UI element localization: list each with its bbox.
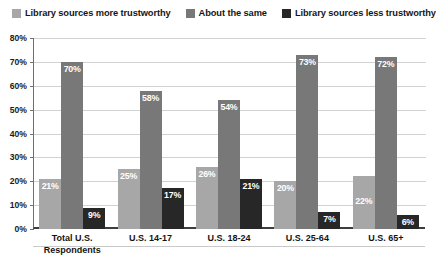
- bar-value-label: 54%: [218, 102, 240, 112]
- bar-value-label: 9%: [83, 210, 105, 220]
- bar: 6%: [397, 215, 419, 229]
- bar-group: 21%70%9%: [39, 38, 105, 229]
- x-axis-labels: Total U.S.RespondentsU.S. 14-17U.S. 18-2…: [33, 233, 425, 269]
- y-axis-tick-label: 10%: [10, 200, 27, 210]
- bar-value-label: 21%: [39, 181, 61, 191]
- bar: 25%: [118, 169, 140, 229]
- bar-value-label: 73%: [296, 57, 318, 67]
- bar-value-label: 58%: [140, 93, 162, 103]
- y-axis-tick-label: 20%: [10, 176, 27, 186]
- bar: 70%: [61, 62, 83, 229]
- bar-value-label: 72%: [375, 59, 397, 69]
- legend-label-1: About the same: [199, 8, 267, 18]
- bar: 9%: [83, 208, 105, 229]
- bar-value-label: 25%: [118, 171, 140, 181]
- bar: 21%: [240, 179, 262, 229]
- bar-group: 25%58%17%: [118, 38, 184, 229]
- x-axis-label-line: Total U.S.: [33, 233, 111, 245]
- bottom-rule: [33, 246, 425, 247]
- x-axis-label: Total U.S.Respondents: [33, 233, 111, 256]
- bar: 20%: [274, 181, 296, 229]
- bar-group: 20%73%7%: [274, 38, 340, 229]
- y-axis-tick-label: 70%: [10, 57, 27, 67]
- x-axis-label-line: U.S. 25-64: [268, 233, 346, 245]
- y-axis-tick-label: 60%: [10, 81, 27, 91]
- legend-item-about-the-same: About the same: [186, 0, 267, 26]
- bar-value-label: 7%: [318, 214, 340, 224]
- y-axis-tick: [30, 229, 34, 230]
- bar-value-label: 6%: [397, 217, 419, 227]
- bars-layer: 21%70%9%25%58%17%26%54%21%20%73%7%22%72%…: [33, 38, 425, 229]
- bar-value-label: 26%: [196, 169, 218, 179]
- bar: 21%: [39, 179, 61, 229]
- bar-value-label: 17%: [162, 190, 184, 200]
- bar: 7%: [318, 212, 340, 229]
- legend-label-0: Library sources more trustworthy: [25, 8, 171, 18]
- legend-swatch-icon-2: [282, 9, 291, 18]
- bar-value-label: 20%: [274, 183, 296, 193]
- y-axis-tick-label: 80%: [10, 33, 27, 43]
- legend-item-more-trustworthy: Library sources more trustworthy: [12, 0, 171, 26]
- x-axis-label-line: U.S. 14-17: [111, 233, 189, 245]
- bar: 73%: [296, 55, 318, 229]
- x-axis-label-line: U.S. 65+: [347, 233, 425, 245]
- y-axis-tick-label: 0%: [15, 224, 27, 234]
- bar: 17%: [162, 188, 184, 229]
- bar: 54%: [218, 100, 240, 229]
- legend-swatch-icon-0: [12, 9, 21, 18]
- legend-swatch-icon-1: [186, 9, 195, 18]
- bar-value-label: 21%: [240, 181, 262, 191]
- bar: 58%: [140, 91, 162, 229]
- y-axis-tick-label: 50%: [10, 105, 27, 115]
- bar: 72%: [375, 57, 397, 229]
- legend-item-less-trustworthy: Library sources less trustworthy: [282, 0, 436, 26]
- x-axis-label: U.S. 65+: [347, 233, 425, 245]
- y-axis-tick-label: 40%: [10, 129, 27, 139]
- x-axis-label: U.S. 14-17: [111, 233, 189, 245]
- x-axis-label: U.S. 25-64: [268, 233, 346, 245]
- x-axis-label-line: U.S. 18-24: [190, 233, 268, 245]
- bar: 22%: [353, 176, 375, 229]
- chart-legend: Library sources more trustworthy About t…: [0, 0, 433, 26]
- bar: 26%: [196, 167, 218, 229]
- bar-value-label: 70%: [61, 64, 83, 74]
- bar-group: 26%54%21%: [196, 38, 262, 229]
- y-axis-tick-label: 30%: [10, 152, 27, 162]
- bar-group: 22%72%6%: [353, 38, 419, 229]
- bar-value-label: 22%: [353, 196, 375, 206]
- x-axis-label: U.S. 18-24: [190, 233, 268, 245]
- legend-label-2: Library sources less trustworthy: [295, 8, 436, 18]
